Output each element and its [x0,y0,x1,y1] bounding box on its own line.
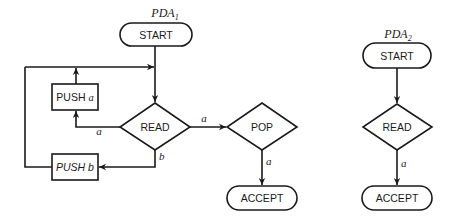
pda2-accept-label: ACCEPT [376,192,419,204]
pda1-edge-label-a-right: a [201,112,207,124]
pda1-read-node: READ [120,103,190,150]
pda1-push-b-to-loop-edge [25,67,52,167]
pda1-title: PDA1 [150,6,178,22]
pda1-push-a-label: PUSH a [56,91,93,103]
pda2-title: PDA2 [383,27,411,43]
pda2-read-node: READ [363,104,432,150]
pda1-push-b-node: PUSH b [52,154,98,180]
pda2-start-label: START [380,50,414,62]
pda1-pop-node: POP [227,103,297,150]
pda1-read-label: READ [140,121,170,133]
pda1-push-b-label: PUSH b [56,161,94,173]
pda1-accept-label: ACCEPT [241,192,284,204]
pda1-edge-label-b: b [159,150,165,162]
pda2-start-node: START [363,43,431,68]
pda1-push-a-node: PUSH a [52,84,98,110]
pda2-accept-node: ACCEPT [362,186,432,210]
pda1-pop-label: POP [251,121,273,133]
pda1-start-node: START [120,23,192,46]
pda1-accept-node: ACCEPT [227,186,297,210]
pda2-read-label: READ [382,121,412,133]
pda1-edge-label-a-down: a [266,155,272,167]
pda1-edge-label-a-left: a [96,125,102,137]
pda2-edge-label-a: a [401,157,407,169]
pda1-start-label: START [139,29,173,41]
flowchart-canvas: PDA1 START PUSH a a READ b [0,0,459,224]
pda1-diagram: PDA1 START PUSH a a READ b [25,6,297,210]
pda1-read-to-push-b-edge [99,150,155,167]
pda2-diagram: PDA2 START READ a ACCEPT [362,27,432,210]
